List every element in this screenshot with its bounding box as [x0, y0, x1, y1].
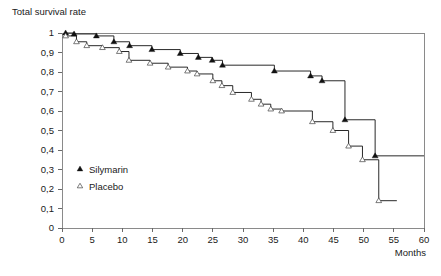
y-tick-label-1: 0,1 — [41, 203, 54, 214]
series-step-path-placebo — [66, 36, 397, 201]
survival-chart: 00,10,20,30,40,50,60,70,80,9105101520253… — [0, 0, 441, 276]
series-marker-placebo-12 — [230, 90, 236, 95]
axis-frame-top-right — [62, 33, 424, 228]
series-marker-silymarin-8 — [209, 57, 215, 62]
x-tick-label-5: 25 — [208, 234, 219, 245]
series-marker-silymarin-13 — [342, 117, 348, 122]
x-tick-label-2: 10 — [117, 234, 128, 245]
series-marker-placebo-20 — [360, 157, 366, 162]
series-marker-placebo-6 — [147, 60, 153, 65]
series-marker-placebo-21 — [376, 198, 382, 203]
y-tick-label-10: 1 — [49, 27, 54, 38]
series-marker-placebo-1 — [74, 39, 80, 44]
series-marker-placebo-2 — [84, 43, 90, 48]
series-marker-silymarin-9 — [219, 62, 225, 67]
x-tick-label-3: 15 — [147, 234, 158, 245]
x-tick-label-12: 60 — [419, 234, 430, 245]
x-tick-label-8: 40 — [298, 234, 309, 245]
series-marker-placebo-7 — [165, 64, 171, 69]
series-marker-placebo-4 — [116, 49, 122, 54]
axis-frame-left-bottom — [62, 33, 424, 228]
series-marker-silymarin-14 — [372, 153, 378, 158]
legend-marker-placebo — [77, 183, 82, 188]
series-marker-placebo-17 — [310, 119, 316, 124]
x-tick-label-11: 55 — [389, 234, 400, 245]
series-marker-placebo-10 — [210, 78, 216, 83]
y-tick-label-5: 0,5 — [41, 125, 54, 136]
series-marker-silymarin-3 — [111, 39, 117, 44]
chart-canvas: 00,10,20,30,40,50,60,70,80,9105101520253… — [0, 0, 441, 276]
legend-label-placebo: Placebo — [89, 181, 123, 192]
series-marker-placebo-8 — [185, 68, 191, 73]
series-marker-placebo-14 — [258, 101, 264, 106]
y-tick-label-0: 0 — [49, 222, 54, 233]
y-tick-label-8: 0,8 — [41, 66, 54, 77]
y-tick-label-3: 0,3 — [41, 164, 54, 175]
x-tick-label-7: 35 — [268, 234, 279, 245]
y-tick-label-7: 0,7 — [41, 86, 54, 97]
series-marker-silymarin-11 — [308, 73, 314, 78]
x-axis-title: Months — [395, 247, 426, 258]
series-marker-placebo-9 — [194, 71, 200, 76]
series-marker-silymarin-10 — [271, 68, 277, 73]
y-tick-label-6: 0,6 — [41, 105, 54, 116]
series-marker-placebo-13 — [249, 96, 255, 101]
legend-marker-silymarin — [77, 166, 83, 171]
x-tick-label-4: 20 — [177, 234, 188, 245]
y-tick-label-4: 0,4 — [41, 144, 54, 155]
y-tick-label-9: 0,9 — [41, 47, 54, 58]
chart-title: Total survival rate — [12, 6, 86, 17]
x-tick-label-1: 5 — [90, 234, 95, 245]
series-marker-silymarin-5 — [149, 47, 155, 52]
series-marker-silymarin-4 — [127, 43, 133, 48]
series-marker-placebo-18 — [330, 128, 336, 133]
series-marker-placebo-19 — [346, 143, 352, 148]
y-tick-label-2: 0,2 — [41, 183, 54, 194]
series-marker-silymarin-12 — [319, 78, 325, 83]
series-marker-placebo-15 — [268, 106, 274, 111]
legend-label-silymarin: Silymarin — [89, 164, 128, 175]
x-tick-label-0: 0 — [59, 234, 64, 245]
series-marker-placebo-5 — [126, 57, 132, 62]
series-marker-placebo-11 — [219, 83, 225, 88]
series-marker-silymarin-6 — [177, 50, 183, 55]
x-tick-label-10: 50 — [358, 234, 369, 245]
series-marker-silymarin-7 — [195, 54, 201, 59]
x-tick-label-9: 45 — [328, 234, 339, 245]
x-tick-label-6: 30 — [238, 234, 249, 245]
